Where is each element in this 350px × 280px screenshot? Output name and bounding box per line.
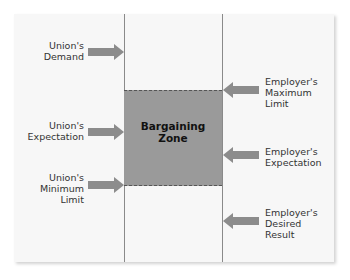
- arrow-left-icon: [223, 213, 259, 229]
- employer-expectation-label: Employer's Expectation: [265, 146, 345, 168]
- union-minimum-limit-label: Union's Minimum Limit: [4, 172, 84, 205]
- arrow-right-icon: [88, 177, 124, 193]
- arrow-left-icon: [223, 147, 259, 163]
- union-expectation-label: Union's Expectation: [4, 120, 84, 142]
- arrow-right-icon: [88, 124, 124, 140]
- arrow-left-icon: [223, 82, 259, 98]
- arrow-right-icon: [88, 44, 124, 60]
- employer-desired-result-label: Employer's Desired Result: [265, 207, 345, 240]
- bargaining-zone: Bargaining Zone: [124, 90, 222, 186]
- employer-maximum-limit-label: Employer's Maximum Limit: [265, 76, 345, 109]
- bargaining-zone-label: Bargaining Zone: [141, 120, 206, 144]
- union-demand-label: Union's Demand: [4, 40, 84, 62]
